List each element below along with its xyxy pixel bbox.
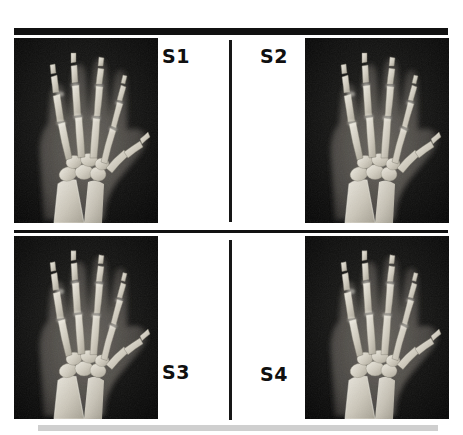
panel-s4[interactable]: S4	[232, 236, 463, 426]
hand-xray-image-s4	[305, 236, 449, 419]
middle-horizontal-rule	[14, 230, 448, 233]
panel-s1[interactable]: S1	[0, 36, 229, 228]
hand-xray-image-s3	[14, 236, 158, 419]
hand-xray-image-s1	[14, 38, 158, 223]
panel-s2[interactable]: S2	[232, 36, 463, 228]
panel-label-s2: S2	[260, 45, 288, 67]
top-horizontal-rule	[14, 28, 448, 35]
panel-s3[interactable]: S3	[0, 236, 229, 426]
panel-label-s1: S1	[162, 45, 190, 67]
panel-label-s3: S3	[162, 361, 190, 383]
panel-label-s4: S4	[260, 363, 288, 385]
hand-xray-image-s2	[305, 38, 449, 223]
